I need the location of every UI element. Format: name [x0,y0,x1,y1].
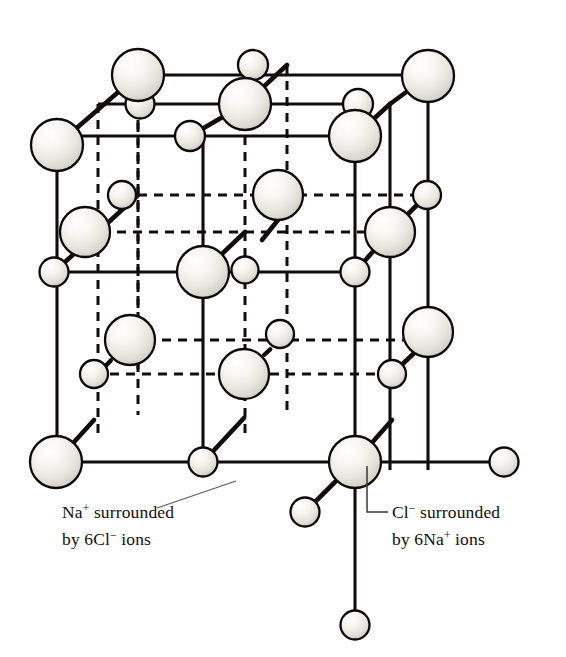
ion-na-na-ext-down [341,611,370,640]
cl-label-rest: surrounded [415,502,500,522]
ion-na-na-bbl [80,360,108,388]
ion-cl-cl-cmr [365,207,415,257]
ion-na-na-cmr [413,181,441,209]
ion-cl-cl-rbm [403,307,453,357]
cl-label-element: Cl [392,502,409,522]
na-label-line2: by 6Cl [62,529,110,549]
ion-na-na-fbm [189,448,218,477]
ion-cl-cl-ftl [31,119,83,171]
ion-cl-cl-btr [402,50,454,102]
ion-na-na-fmr [341,258,370,287]
ion-cl-cl-bbm [219,349,269,399]
ion-na-na-lbm [266,320,294,348]
ion-cl-cl-fbr [329,436,381,488]
ion-na-na-fml [40,258,69,287]
ion-na-na-btm [238,50,268,80]
lattice-svg: Na+ surrounded by 6Cl− ions Cl− surround… [0,0,566,657]
cl-label-line2-rest: ions [451,529,485,549]
cl-label-charge: − [409,502,416,514]
ion-cl-cl-mlc [60,207,110,257]
ion-cl-cl-lbl [105,315,155,365]
ion-cl-cl-ftr [329,110,381,162]
ion-cl-cl-ctr [253,170,303,220]
ion-na-na-ext-right [490,448,519,477]
nacl-lattice-figure: Na+ surrounded by 6Cl− ions Cl− surround… [0,0,566,657]
na-callout-line2: by 6Cl− ions [62,529,151,549]
ion-cl-cl-fcm [177,246,229,298]
cl-label-line2-charge: + [444,529,451,541]
na-label-rest: surrounded [89,502,174,522]
ion-na-na-bc [232,257,259,284]
cl-callout-line2: by 6Na+ ions [392,529,485,549]
ion-na-na-ftm [175,121,205,151]
na-label-charge: + [83,502,90,514]
na-label-element: Na [62,502,83,522]
na-label-line2-rest: ions [117,529,151,549]
ion-cl-cl-mtm [219,78,271,130]
na-callout-line1: Na+ surrounded [62,502,174,522]
ion-na-na-mll [108,181,136,209]
na-label-line2-charge: − [110,529,117,541]
cl-label-line2: by 6Na [392,529,444,549]
ion-na-na-ext-diag [291,498,320,527]
ion-cl-cl-btl [112,49,164,101]
ion-cl-cl-fbl [30,436,82,488]
cl-callout-line1: Cl− surrounded [392,502,500,522]
ion-na-na-bbr [378,360,406,388]
